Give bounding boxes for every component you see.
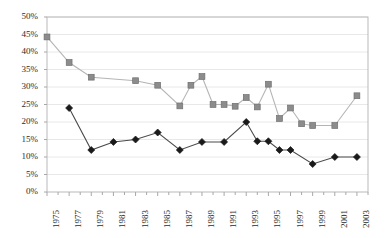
x-axis-tick-label: 1987 (184, 210, 194, 228)
x-axis-tick-label: 1989 (206, 210, 216, 228)
x-axis-tick-label: 1991 (228, 210, 238, 228)
data-point-square (354, 93, 360, 99)
data-point-square (277, 116, 283, 122)
series-line-square (47, 37, 357, 126)
data-point-diamond (88, 147, 95, 154)
series-line-diamond (69, 108, 357, 164)
y-axis-tick-label: 25% (2, 99, 38, 109)
x-axis-tick-label: 2001 (339, 210, 349, 228)
data-point-square (177, 103, 183, 109)
data-point-square (254, 104, 260, 110)
data-point-square (210, 102, 216, 108)
data-point-square (155, 82, 161, 88)
data-point-diamond (287, 147, 294, 154)
data-point-square (332, 123, 338, 129)
data-point-square (310, 123, 316, 129)
data-point-diamond (254, 138, 261, 145)
data-point-square (88, 74, 94, 80)
y-axis-tick-label: 20% (2, 116, 38, 126)
chart-container: 0%5%10%15%20%25%30%35%40%45%50%197519771… (0, 0, 390, 238)
y-axis-tick-label: 10% (2, 151, 38, 161)
y-axis-tick-label: 45% (2, 29, 38, 39)
data-point-square (299, 121, 305, 127)
x-axis-tick-label: 1975 (51, 210, 61, 228)
data-point-square (221, 102, 227, 108)
y-axis-tick-label: 0% (2, 186, 38, 196)
data-point-square (188, 82, 194, 88)
x-axis-tick-label: 1977 (73, 210, 83, 228)
data-point-square (133, 78, 139, 84)
x-axis-tick-label: 1993 (250, 210, 260, 228)
line-chart-plot (0, 0, 390, 238)
data-point-square (66, 60, 72, 66)
x-axis-tick-label: 1979 (95, 210, 105, 228)
y-axis-tick-label: 30% (2, 81, 38, 91)
data-point-square (265, 81, 271, 87)
y-axis-tick-label: 40% (2, 46, 38, 56)
data-point-diamond (309, 161, 316, 168)
data-point-diamond (331, 154, 338, 161)
x-axis-tick-label: 1995 (272, 210, 282, 228)
x-axis-tick-label: 1983 (140, 210, 150, 228)
y-axis-tick-label: 15% (2, 134, 38, 144)
data-point-square (44, 34, 50, 40)
x-axis-tick-label: 1985 (162, 210, 172, 228)
data-point-square (243, 95, 249, 101)
data-point-square (288, 105, 294, 111)
data-point-diamond (353, 154, 360, 161)
data-point-diamond (132, 136, 139, 143)
x-axis-tick-label: 1981 (117, 210, 127, 228)
x-axis-tick-label: 2003 (361, 210, 371, 228)
y-axis-tick-label: 35% (2, 64, 38, 74)
data-point-diamond (66, 105, 73, 112)
y-axis-tick-label: 5% (2, 169, 38, 179)
x-axis-tick-label: 1999 (317, 210, 327, 228)
data-point-square (232, 103, 238, 109)
x-axis-tick-label: 1997 (295, 210, 305, 228)
y-axis-tick-label: 50% (2, 11, 38, 21)
data-point-square (199, 74, 205, 80)
